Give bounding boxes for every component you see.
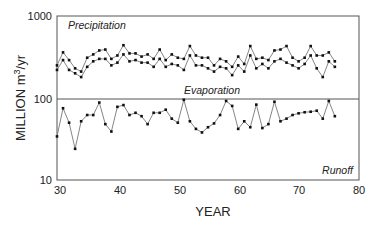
data-point-marker [98, 101, 101, 104]
data-point-marker [92, 53, 95, 56]
data-point-marker [249, 126, 252, 129]
data-point-marker [110, 130, 113, 133]
data-point-marker [328, 100, 331, 103]
data-point-marker [231, 66, 234, 69]
precipitation-label: Precipitation [68, 19, 126, 31]
data-point-marker [291, 56, 294, 59]
data-point-marker [189, 45, 192, 48]
data-point-marker [177, 64, 180, 67]
data-point-marker [170, 63, 173, 66]
data-point-marker [309, 45, 312, 48]
data-point-marker [303, 56, 306, 59]
data-point-marker [189, 120, 192, 123]
data-point-marker [80, 76, 83, 79]
data-point-marker [56, 69, 59, 72]
data-point-marker [334, 115, 337, 118]
x-tick-80: 80 [353, 184, 365, 196]
data-point-marker [231, 74, 234, 77]
data-point-marker [249, 45, 252, 48]
data-point-marker [177, 121, 180, 124]
y-tick-10: 10 [40, 174, 52, 186]
y-axis-label: MILLION m3/yr [12, 54, 28, 141]
data-point-marker [328, 51, 331, 54]
data-point-marker [201, 64, 204, 67]
data-point-marker [152, 111, 155, 114]
data-point-marker [68, 69, 71, 72]
data-point-marker [183, 99, 186, 102]
data-point-marker [104, 58, 107, 61]
data-point-marker [104, 48, 107, 51]
x-tick-30: 30 [54, 184, 66, 196]
data-point-marker [297, 112, 300, 115]
data-point-marker [68, 59, 71, 62]
data-point-marker [237, 55, 240, 58]
data-point-marker [273, 60, 276, 63]
data-point-marker [122, 44, 125, 47]
x-tick-50: 50 [174, 184, 186, 196]
data-point-marker [279, 48, 282, 51]
data-point-marker [249, 54, 252, 57]
x-tick-60: 60 [234, 184, 246, 196]
data-point-marker [62, 51, 65, 54]
data-point-marker [134, 111, 137, 114]
data-point-marker [146, 123, 149, 126]
data-point-marker [309, 54, 312, 57]
data-point-marker [158, 58, 161, 61]
y-tick-100: 100 [34, 93, 52, 105]
evaporation-label: Evaporation [184, 84, 240, 96]
data-point-marker [219, 66, 222, 69]
data-point-marker [267, 59, 270, 62]
data-point-marker [315, 109, 318, 112]
data-point-marker [261, 63, 264, 66]
data-point-marker [207, 56, 210, 59]
data-point-marker [146, 61, 149, 64]
data-point-marker [297, 60, 300, 63]
data-point-marker [243, 70, 246, 73]
data-point-marker [98, 49, 101, 52]
data-point-marker [285, 61, 288, 64]
data-point-marker [146, 53, 149, 56]
data-point-marker [334, 66, 337, 69]
data-point-marker [303, 111, 306, 114]
data-point-marker [86, 56, 89, 59]
x-tick-70: 70 [293, 184, 305, 196]
data-point-marker [213, 122, 216, 125]
data-point-marker [195, 64, 198, 67]
data-point-marker [116, 61, 119, 64]
data-point-marker [279, 58, 282, 61]
data-point-marker [309, 110, 312, 113]
data-point-marker [152, 66, 155, 69]
data-point-marker [321, 76, 324, 79]
data-point-marker [261, 56, 264, 59]
data-point-marker [237, 64, 240, 67]
data-point-marker [195, 54, 198, 57]
data-point-marker [231, 105, 234, 108]
data-point-marker [315, 67, 318, 70]
data-point-marker [170, 53, 173, 56]
runoff-line [57, 100, 335, 149]
data-point-marker [201, 131, 204, 134]
chart-canvas: 1000 100 10 30 40 50 60 70 80 YEAR MILLI… [0, 0, 385, 227]
data-point-marker [285, 117, 288, 120]
data-point-marker [189, 54, 192, 57]
plot-frame [57, 16, 359, 180]
data-point-marker [243, 63, 246, 66]
data-point-marker [56, 64, 59, 67]
data-point-marker [164, 59, 167, 62]
data-point-marker [255, 67, 258, 70]
data-point-marker [164, 66, 167, 69]
data-point-marker [315, 54, 318, 57]
data-point-marker [128, 52, 131, 55]
data-point-marker [219, 58, 222, 61]
data-point-marker [183, 58, 186, 61]
series-layer [56, 44, 336, 150]
data-point-marker [80, 70, 83, 73]
data-point-marker [86, 114, 89, 117]
data-point-marker [183, 69, 186, 72]
data-point-marker [291, 64, 294, 67]
data-point-marker [273, 100, 276, 103]
data-point-marker [158, 111, 161, 114]
data-point-marker [297, 67, 300, 70]
data-point-marker [195, 128, 198, 131]
data-point-marker [285, 45, 288, 48]
